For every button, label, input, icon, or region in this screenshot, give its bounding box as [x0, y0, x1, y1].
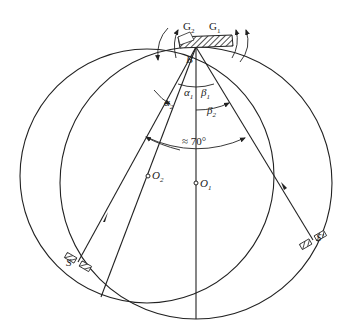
label-s: S: [66, 256, 72, 268]
label-angle-70: ≈ 70°: [182, 135, 206, 147]
rowland-circle-diagram: G2 G1 B α1 β1 α2 β2 ≈ 70° O2 O1 S S': [0, 0, 350, 331]
label-alpha2: α2: [164, 96, 174, 111]
label-g1: G1: [209, 20, 221, 35]
angle-arc-beta2: [196, 103, 229, 110]
rotation-arrow-left-inner-icon: [174, 30, 178, 58]
center-point-o2: [146, 174, 150, 178]
label-b: B: [186, 53, 193, 65]
label-alpha1: α1: [184, 86, 193, 101]
label-o2: O2: [152, 169, 164, 184]
label-beta2: β2: [206, 104, 216, 119]
ray-arrow-left-icon: [103, 212, 108, 222]
axis-line-o2: [101, 47, 196, 297]
crystal-block: [178, 32, 233, 48]
label-beta1: β1: [200, 86, 210, 101]
center-point-o1: [194, 181, 198, 185]
ray-b-to-s-prime: [196, 47, 313, 240]
label-o1: O1: [200, 177, 211, 192]
ray-b-to-s: [78, 47, 196, 262]
label-s-prime: S': [316, 231, 325, 243]
rotation-arrow-left-outer-icon: [158, 28, 168, 60]
